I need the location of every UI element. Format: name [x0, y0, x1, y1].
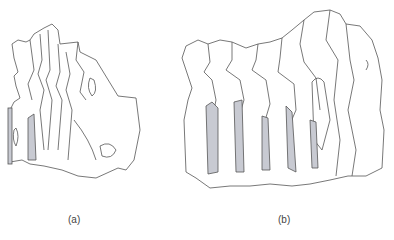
panel-b-label: (b): [278, 214, 290, 225]
panel-b-illustration: [182, 10, 384, 188]
panel-a-label: (a): [68, 214, 80, 225]
panel-a-illustration: [8, 24, 140, 178]
figure-a-drawing: [0, 0, 394, 240]
